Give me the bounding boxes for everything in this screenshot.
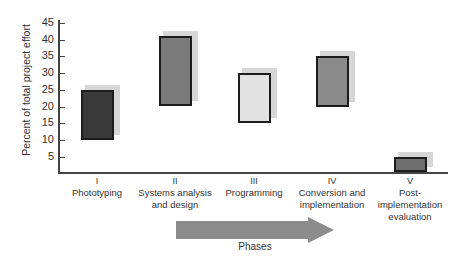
bar-phase-IV — [316, 56, 349, 106]
category-label: Phototyping — [52, 187, 142, 199]
category-numeral: III — [234, 176, 274, 186]
category-label: Systems analysis and design — [130, 187, 220, 211]
category-label: Conversion and implementation — [287, 187, 377, 211]
y-tick-label: 45 — [34, 16, 54, 28]
y-tick-label: 10 — [34, 133, 54, 145]
bar-phase-III — [238, 73, 271, 123]
y-tick-label: 25 — [34, 83, 54, 95]
bar-phase-V — [394, 157, 427, 172]
y-tick — [59, 90, 65, 91]
y-tick — [59, 157, 65, 158]
category-numeral: V — [390, 176, 430, 186]
phases-arrow — [176, 221, 310, 239]
y-tick-label: 35 — [34, 49, 54, 61]
category-label: Post- implementation evaluation — [365, 187, 455, 223]
y-tick — [59, 140, 65, 141]
category-label: Programming — [209, 187, 299, 199]
y-tick-label: 15 — [34, 116, 54, 128]
y-tick-label: 5 — [34, 150, 54, 162]
category-numeral: II — [155, 176, 195, 186]
y-tick-label: 30 — [34, 66, 54, 78]
y-tick — [59, 107, 65, 108]
bar-phase-II — [159, 36, 192, 106]
y-tick — [59, 56, 65, 57]
y-tick-label: 40 — [34, 33, 54, 45]
y-tick — [59, 23, 65, 24]
y-axis — [58, 20, 60, 173]
y-tick — [59, 123, 65, 124]
phases-label: Phases — [230, 241, 280, 252]
y-axis-label: Percent of total project effort — [20, 24, 32, 156]
x-axis — [58, 172, 448, 174]
y-tick — [59, 73, 65, 74]
bar-phase-I — [81, 90, 114, 140]
y-tick-label: 20 — [34, 100, 54, 112]
category-numeral: I — [77, 176, 117, 186]
arrow-head-icon — [308, 217, 334, 243]
category-numeral: IV — [312, 176, 352, 186]
y-tick — [59, 40, 65, 41]
